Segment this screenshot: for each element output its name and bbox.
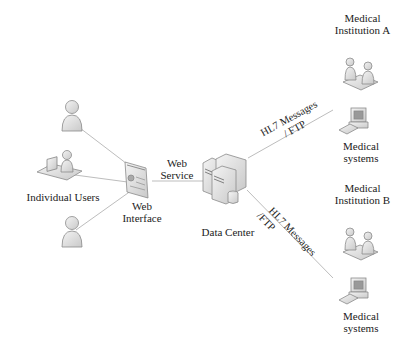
computer-icon — [339, 278, 368, 304]
user-icon — [62, 101, 82, 132]
consultation-icon — [343, 228, 378, 260]
data-center-label: Data Center — [193, 226, 263, 238]
institution-b-title: Medical Institution B — [325, 182, 400, 206]
computer-icon — [339, 108, 368, 134]
institution-b-title-line1: Medical — [325, 182, 400, 194]
web-service-label-line2: Service — [152, 169, 202, 181]
institution-b-systems-line2: systems — [333, 322, 389, 334]
user-icon — [62, 217, 82, 248]
institution-b-systems-line1: Medical — [333, 310, 389, 322]
web-service-label: Web Service — [152, 157, 202, 181]
institution-a-systems-line2: systems — [333, 152, 389, 164]
institution-a-title-line2: Institution A — [325, 24, 400, 36]
web-service-label-line1: Web — [152, 157, 202, 169]
web-page-icon — [125, 162, 148, 198]
web-interface-label-line1: Web — [112, 200, 172, 212]
institution-b-title-line2: Institution B — [325, 194, 400, 206]
institution-a-systems-label: Medical systems — [333, 140, 389, 164]
web-interface-label: Web Interface — [112, 200, 172, 224]
web-interface-label-line2: Interface — [112, 212, 172, 224]
institution-a-title: Medical Institution A — [325, 12, 400, 36]
consultation-icon — [343, 58, 378, 90]
institution-a-systems-line1: Medical — [333, 140, 389, 152]
individual-users-label: Individual Users — [18, 191, 108, 203]
diagram-canvas — [0, 0, 409, 359]
institution-b-systems-label: Medical systems — [333, 310, 389, 334]
institution-a-title-line1: Medical — [325, 12, 400, 24]
server-cluster-icon — [203, 154, 246, 204]
user-at-desk-icon — [37, 151, 82, 181]
